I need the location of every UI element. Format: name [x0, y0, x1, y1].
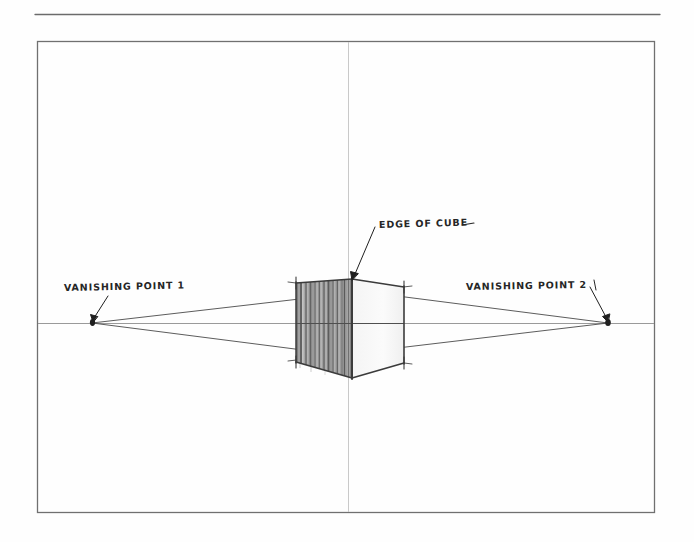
- cube-right-face: [352, 279, 404, 378]
- perspective-drawing: VANISHING POINT 1 VANISHING POINT 2 EDGE…: [0, 0, 694, 542]
- edge-of-cube-label: EDGE OF CUBE: [379, 217, 468, 230]
- frame-border: [38, 42, 655, 513]
- leader-edge-of-cube: [355, 227, 375, 274]
- paper-sheet: VANISHING POINT 1 VANISHING POINT 2 EDGE…: [0, 0, 694, 542]
- vanishing-point-2-label-tail: [594, 280, 596, 290]
- leader-vanishing-point-1: [94, 296, 108, 318]
- leader-vanishing-point-2: [590, 287, 606, 317]
- vanishing-point-1-label: VANISHING POINT 1: [64, 279, 185, 293]
- vanishing-point-2-label: VANISHING POINT 2: [466, 279, 587, 292]
